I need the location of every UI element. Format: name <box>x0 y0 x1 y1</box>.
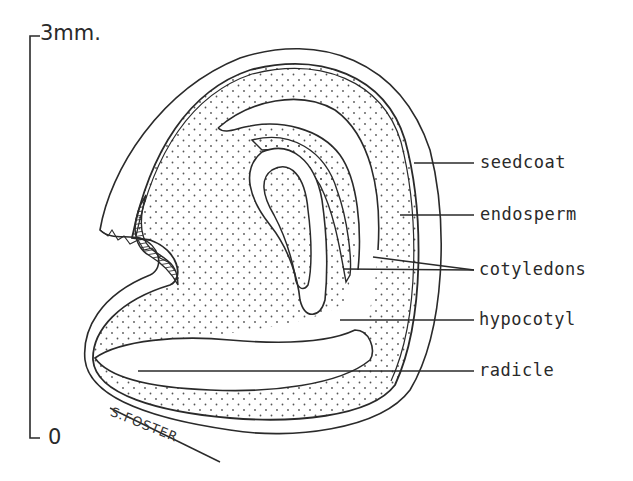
scale-top-label: 3mm. <box>40 21 101 45</box>
seed-diagram <box>0 0 633 481</box>
scale-bottom-label: 0 <box>48 425 61 449</box>
label-radicle: radicle <box>479 360 554 380</box>
label-endosperm: endosperm <box>480 204 577 224</box>
label-hypocotyl: hypocotyl <box>479 309 576 329</box>
label-cotyledons: cotyledons <box>479 259 586 279</box>
label-seedcoat: seedcoat <box>480 152 566 172</box>
scale-bar <box>30 36 40 438</box>
